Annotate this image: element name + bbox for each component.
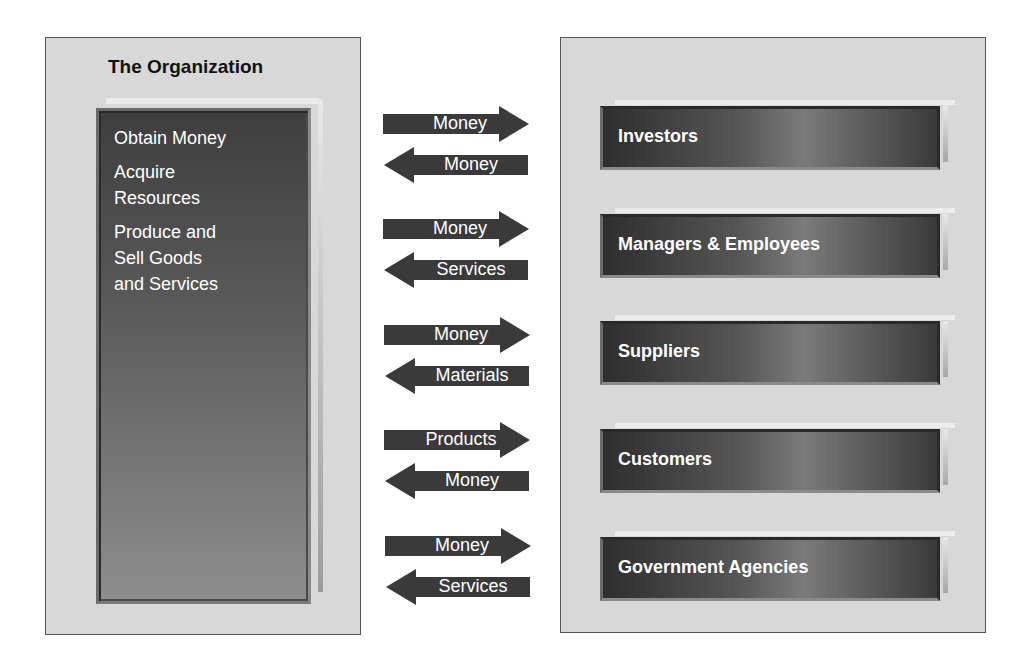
organization-box-side-edge (318, 100, 323, 592)
activity-acquire-resources: Acquire Resources (114, 159, 226, 211)
arrow-right-icon (499, 211, 529, 247)
arrow-left-icon (384, 252, 414, 288)
organization-activities: Obtain Money Acquire Resources Produce a… (114, 125, 226, 305)
organization-box-top-edge (106, 98, 321, 104)
arrow-right-icon (500, 422, 530, 458)
activity-produce-and-sell: Produce and Sell Goods and Services (114, 219, 226, 297)
stakeholder-government-agencies: Government Agencies (600, 537, 940, 603)
stakeholder-investors: Investors (600, 106, 940, 172)
stakeholder-managers-employees: Managers & Employees (600, 214, 940, 280)
arrow-left-icon (385, 358, 415, 394)
organization-title: The Organization (108, 56, 263, 78)
arrow-right-icon (499, 106, 529, 142)
organization-box: Obtain Money Acquire Resources Produce a… (96, 108, 311, 604)
arrow-left-icon (385, 463, 415, 499)
arrow-right-icon (501, 528, 531, 564)
arrow-right-icon (500, 317, 530, 353)
organization-panel: The Organization Obtain Money Acquire Re… (45, 37, 361, 635)
stakeholder-customers: Customers (600, 429, 940, 495)
stakeholder-suppliers: Suppliers (600, 321, 940, 387)
activity-obtain-money: Obtain Money (114, 125, 226, 151)
arrow-left-icon (384, 147, 414, 183)
arrow-left-icon (386, 569, 416, 605)
